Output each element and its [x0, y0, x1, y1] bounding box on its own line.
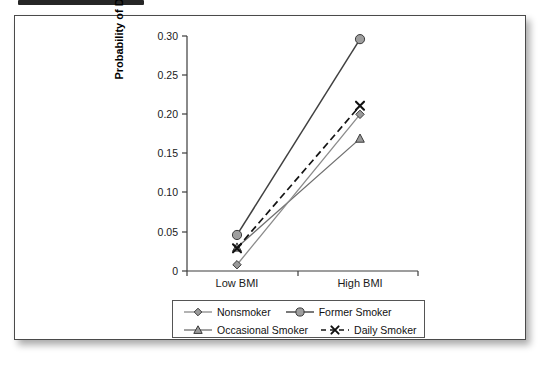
legend-item-daily-smoker: Daily Smoker — [320, 323, 416, 337]
x-tick-label-low-bmi: Low BMI — [197, 277, 277, 289]
legend-label-daily-smoker: Daily Smoker — [354, 324, 416, 336]
y-tick-label-0.20: 0.20 — [122, 108, 178, 120]
legend-symbol-circle — [285, 305, 315, 319]
legend-label-occasional-smoker: Occasional Smoker — [217, 324, 308, 336]
y-tick-label-0.25: 0.25 — [122, 69, 178, 81]
figure-frame — [14, 15, 526, 340]
page-header-band — [18, 0, 144, 5]
legend-label-nonsmoker: Nonsmoker — [217, 306, 271, 318]
legend-symbol-x — [320, 323, 350, 337]
legend-symbol-diamond — [183, 305, 213, 319]
legend-item-occasional-smoker: Occasional Smoker — [183, 323, 308, 337]
legend-label-former-smoker: Former Smoker — [319, 306, 392, 318]
y-tick-label-0.15: 0.15 — [122, 147, 178, 159]
legend-symbol-triangle — [183, 323, 213, 337]
y-tick-label-0.30: 0.30 — [122, 30, 178, 42]
y-tick-label-0.05: 0.05 — [122, 226, 178, 238]
y-tick-label-0: 0 — [122, 265, 178, 277]
y-tick-label-0.10: 0.10 — [122, 186, 178, 198]
x-tick-label-high-bmi: High BMI — [320, 277, 400, 289]
chart-legend: Nonsmoker Former Smoker Occasional Smoke… — [172, 300, 425, 338]
legend-item-former-smoker: Former Smoker — [285, 305, 392, 319]
legend-item-nonsmoker: Nonsmoker — [183, 305, 271, 319]
